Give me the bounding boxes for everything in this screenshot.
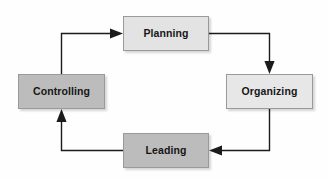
connector-leading-to-controlling-arrowhead [56,109,66,122]
connector-organizing-to-leading [209,109,270,156]
connector-planning-to-organizing [209,34,275,75]
node-leading[interactable]: Leading [123,133,209,168]
node-controlling-label: Controlling [33,86,90,97]
connector-planning-to-organizing-arrowhead [264,61,274,74]
node-organizing[interactable]: Organizing [226,74,313,109]
connector-planning-to-organizing-line [209,34,270,64]
node-controlling[interactable]: Controlling [18,74,105,109]
connector-leading-to-controlling [56,109,123,151]
node-planning-label: Planning [143,28,188,39]
connector-organizing-to-leading-arrowhead [209,145,222,155]
connector-controlling-to-planning [62,28,124,74]
connector-controlling-to-planning-line [62,34,113,75]
management-cycle-diagram: Planning Organizing Leading Controlling [0,0,328,178]
connector-organizing-to-leading-line [220,109,270,151]
connector-leading-to-controlling-line [62,120,124,151]
node-organizing-label: Organizing [242,86,298,97]
connector-controlling-to-planning-arrowhead [110,28,123,38]
node-planning[interactable]: Planning [123,16,209,51]
node-leading-label: Leading [146,145,187,156]
